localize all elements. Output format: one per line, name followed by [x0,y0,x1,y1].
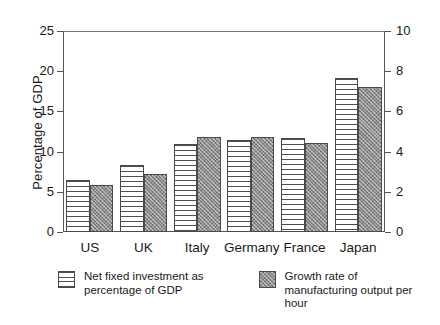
legend-entry-1: Net fixed investment as percentage of GD… [58,270,233,311]
bar-germany-series2 [251,137,275,232]
y2-axis-tick-10 [385,31,391,32]
bar-france-series1 [281,138,305,232]
bar-group-uk [120,31,167,232]
y2-axis-ticklabel-0: 0 [396,225,403,238]
y-axis-ticklabel-10: 10 [40,145,54,158]
y-axis-ticklabel-5: 5 [47,185,54,198]
bars-layer [63,31,385,232]
bar-uk-series1 [120,165,144,232]
y-axis-ticklabel-20: 20 [40,64,54,77]
legend-label-1: Net fixed investment as percentage of GD… [84,270,233,297]
bar-germany-series1 [227,140,251,232]
grouped-bar-chart: Percentage of GDP 05101520250246810 USUK… [0,0,440,325]
y-axis-ticklabel-0: 0 [47,225,54,238]
bar-group-us [66,31,113,232]
bar-group-germany [227,31,274,232]
legend-label-2: Growth rate of manufacturing output per … [285,270,434,311]
y2-axis-ticklabel-2: 2 [396,185,403,198]
y2-axis-ticklabel-4: 4 [396,145,403,158]
y2-axis-tick-6 [385,111,391,112]
bar-us-series1 [66,180,90,232]
y2-axis-ticklabel-6: 6 [396,104,403,117]
bar-group-japan [335,31,382,232]
y2-axis-tick-2 [385,192,391,193]
y-axis-ticklabel-15: 15 [40,104,54,117]
y2-axis-ticklabel-10: 10 [396,24,410,37]
bar-group-italy [174,31,221,232]
category-label-italy: Italy [170,240,224,255]
bar-japan-series1 [335,78,359,232]
y2-axis-tick-0 [385,232,391,233]
y-axis-tick-0 [57,232,63,233]
bar-italy-series2 [197,137,221,232]
category-label-japan: Japan [331,240,385,255]
y2-axis-tick-8 [385,71,391,72]
legend-entry-2: Growth rate of manufacturing output per … [259,270,434,311]
category-label-france: France [278,240,332,255]
bar-france-series2 [305,143,329,232]
gray-stipple-swatch [259,271,276,288]
bar-group-france [281,31,328,232]
bar-japan-series2 [358,87,382,232]
bar-uk-series2 [144,174,168,232]
category-label-uk: UK [117,240,171,255]
bar-us-series2 [90,185,114,232]
y-axis-ticklabel-25: 25 [40,24,54,37]
horizontal-stripes-swatch [58,271,75,288]
category-label-germany: Germany [224,240,278,255]
y2-axis-ticklabel-8: 8 [396,64,403,77]
category-label-us: US [63,240,117,255]
y2-axis-tick-4 [385,152,391,153]
bar-italy-series1 [174,144,198,232]
chart-legend: Net fixed investment as percentage of GD… [58,270,433,311]
